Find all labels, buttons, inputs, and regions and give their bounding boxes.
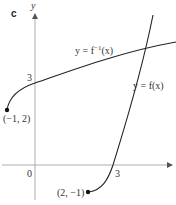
graph-figure: c y 3 0 3 (−1, 2) (2, −1) y = f−1(x) y =… (0, 0, 176, 205)
origin-label: 0 (27, 168, 32, 179)
function-start-point (86, 190, 90, 194)
function-curve (89, 15, 153, 192)
function-start-point-label: (2, −1) (57, 187, 84, 199)
x-tick-label-3: 3 (115, 168, 120, 179)
inverse-start-point-label: (−1, 2) (3, 113, 30, 125)
function-curve-label: y = f(x) (133, 80, 164, 92)
inverse-start-point (5, 108, 9, 112)
part-label: c (11, 8, 17, 19)
y-tick-label-3: 3 (27, 72, 32, 83)
inverse-curve-label-suffix: (x) (101, 45, 113, 57)
inverse-curve-label-prefix: y = f (75, 45, 95, 56)
y-axis-label: y (30, 0, 36, 11)
inverse-curve-label: y = f−1(x) (75, 44, 113, 57)
